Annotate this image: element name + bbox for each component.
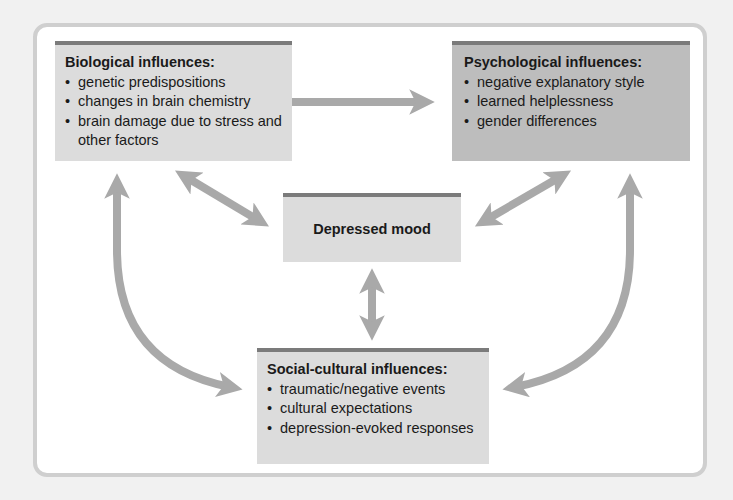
psychological-influences-title: Psychological influences: [464,53,690,73]
list-item: brain damage due to stress and other fac… [65,112,292,151]
depressed-mood-title: Depressed mood [313,220,431,240]
list-item: negative explanatory style [464,73,690,93]
arrow-bio-mood [186,177,258,220]
biological-influences-box: Biological influences: genetic predispos… [55,41,292,161]
depressed-mood-box: Depressed mood [283,193,461,262]
social-cultural-influences-title: Social-cultural influences: [267,360,489,380]
arrow-psy-mood [486,177,560,220]
list-item: genetic predispositions [65,73,292,93]
social-cultural-influences-box: Social-cultural influences: traumatic/ne… [257,348,489,464]
list-item: changes in brain chemistry [65,92,292,112]
list-item: gender differences [464,112,690,132]
social-cultural-influences-list: traumatic/negative events cultural expec… [267,380,489,439]
list-item: learned helplessness [464,92,690,112]
arrow-bio-social [117,186,230,387]
arrow-psy-social [515,186,630,387]
biological-influences-list: genetic predispositions changes in brain… [65,73,292,151]
biological-influences-title: Biological influences: [65,53,292,73]
psychological-influences-box: Psychological influences: negative expla… [452,41,690,161]
list-item: cultural expectations [267,399,489,419]
list-item: traumatic/negative events [267,380,489,400]
psychological-influences-list: negative explanatory style learned helpl… [464,73,690,132]
list-item: depression-evoked responses [267,419,489,439]
